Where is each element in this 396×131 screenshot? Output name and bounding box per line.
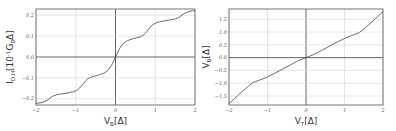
figure: −2−1012−0.2−0.10.00.10.2VB[Δ]ID,H[10-1G0…: [0, 0, 396, 131]
x-axis-label: VB[Δ]: [104, 116, 127, 127]
y-tick-label: −0.2: [22, 95, 34, 101]
x-tick-label: 2: [192, 107, 196, 113]
y-tick-label: 0.1: [26, 33, 34, 39]
x-tick-label: −1: [264, 107, 271, 113]
x-tick-label: 1: [154, 107, 157, 113]
grid: [229, 9, 383, 105]
x-axis-label: VT[Δ]: [295, 116, 318, 127]
x-tick-label: −2: [225, 107, 232, 113]
x-tick-label: 2: [380, 107, 384, 113]
y-axis-label: VB[Δ]: [201, 45, 212, 68]
x-tick-label: 0: [114, 107, 118, 113]
current-vs-bias-plot: −2−1012−0.2−0.10.00.10.2VB[Δ]ID,H[10-1G0…: [0, 0, 198, 131]
y-tick-label: −0.1: [22, 75, 34, 81]
current-vs-bias-chart: −2−1012−0.2−0.10.00.10.2VB[Δ]ID,H[10-1G0…: [0, 0, 198, 131]
y-tick-label: 0.0: [219, 54, 228, 60]
y-tick-label: 1.0: [219, 29, 228, 35]
x-tick-label: −1: [72, 107, 79, 113]
y-tick-label: −1.5: [215, 93, 227, 99]
y-tick-label: −0.5: [215, 67, 227, 73]
y-tick-label: 0.0: [26, 54, 35, 60]
y-axis-label: ID,H[10-1G0Δ]: [5, 30, 16, 83]
x-tick-label: 1: [343, 107, 346, 113]
x-tick-label: −2: [32, 107, 39, 113]
y-tick-label: 1.5: [219, 16, 227, 22]
bias-vs-tip-voltage-plot: −2−1012−1.5−1.0−0.50.00.51.01.5VT[Δ]VB[Δ…: [198, 0, 396, 131]
y-tick-label: 0.2: [26, 12, 34, 18]
y-tick-label: −1.0: [215, 80, 228, 86]
y-tick-label: 0.5: [219, 42, 227, 48]
bias-vs-tip-voltage-chart: −2−1012−1.5−1.0−0.50.00.51.01.5VT[Δ]VB[Δ…: [198, 0, 396, 131]
x-tick-label: 0: [304, 107, 308, 113]
